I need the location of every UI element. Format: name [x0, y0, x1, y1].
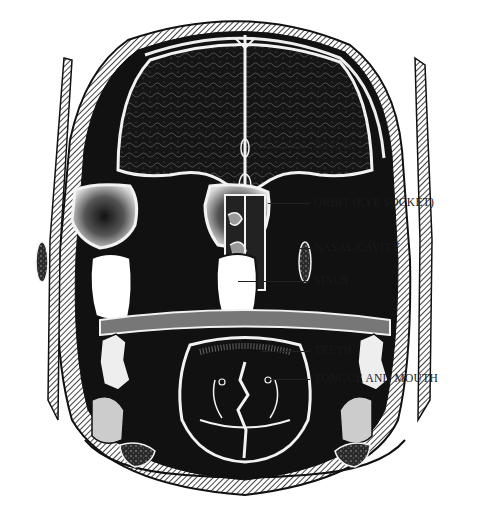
tongue-and-mouth-region	[180, 338, 310, 463]
sinus-leader-line	[238, 281, 310, 282]
brain-region	[118, 35, 372, 198]
tongue-and-mouth-leader-line	[268, 379, 310, 380]
head-cross-section-illustration	[0, 0, 496, 511]
brain-leader-line	[260, 147, 310, 148]
label-orbit: ORBIT (EYE SOCKET)	[314, 197, 434, 209]
label-nasal-cavity: NASAL CAVITY	[314, 242, 400, 254]
label-sinus: SINUS	[314, 275, 349, 287]
label-tongue-and-mouth: TONGUE AND MOUTH	[314, 373, 438, 385]
teeth-leader-line	[262, 351, 310, 352]
nasal-cavity-leader-line	[300, 248, 310, 249]
orbit-leader-line	[268, 203, 310, 204]
head-cross-section-diagram: BRAIN ORBIT (EYE SOCKET) NASAL CAVITY SI…	[0, 0, 496, 511]
label-teeth: TEETH	[314, 345, 352, 357]
label-brain: BRAIN	[314, 141, 351, 153]
